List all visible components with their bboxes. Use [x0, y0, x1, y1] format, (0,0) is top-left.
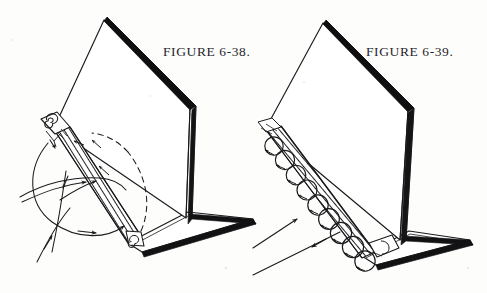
figure-caption-left: FIGURE 6-38. — [163, 44, 250, 59]
rolled-hem-bottom-left — [126, 231, 144, 247]
illustration-plate: FIGURE 6-38. — [0, 0, 487, 293]
figure-caption-right: FIGURE 6-39. — [366, 44, 453, 59]
